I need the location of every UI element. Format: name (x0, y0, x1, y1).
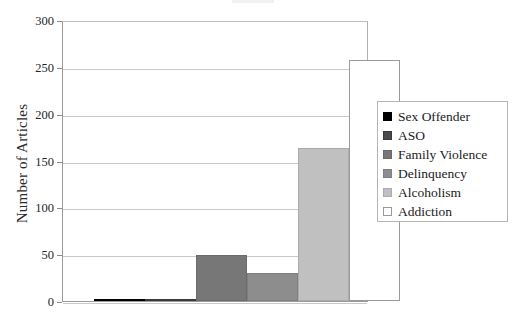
legend-item: Family Violence (383, 145, 507, 164)
bar-series (63, 22, 367, 301)
gridline (63, 303, 367, 304)
y-tick-mark (57, 302, 62, 303)
y-tick-label: 100 (10, 201, 54, 216)
legend-label: Alcoholism (398, 186, 461, 200)
y-tick-label: 0 (10, 295, 54, 310)
scan-artifact (232, 0, 274, 3)
y-tick-label: 150 (10, 154, 54, 169)
y-tick-label: 250 (10, 60, 54, 75)
bar-family-violence (196, 255, 247, 301)
bar-alcoholism (298, 148, 349, 301)
legend-item: Alcoholism (383, 183, 507, 202)
bar-chart-figure: Number of Articles 050100150200250300 Se… (0, 0, 512, 328)
legend-swatch-icon (383, 207, 392, 216)
plot-area (62, 21, 368, 302)
legend-item: Addiction (383, 202, 507, 221)
legend-item: Sex Offender (383, 107, 507, 126)
legend-swatch-icon (383, 169, 392, 178)
legend-label: Addiction (398, 205, 452, 219)
y-tick-label: 300 (10, 14, 54, 29)
legend-item: ASO (383, 126, 507, 145)
y-tick-label: 50 (10, 248, 54, 263)
legend-label: Sex Offender (398, 110, 470, 124)
legend-swatch-icon (383, 188, 392, 197)
legend-swatch-icon (383, 112, 392, 121)
legend-label: Delinquency (398, 167, 467, 181)
bar-delinquency (247, 273, 298, 301)
legend-item: Delinquency (383, 164, 507, 183)
bar-aso (145, 299, 196, 301)
chart-legend: Sex OffenderASOFamily ViolenceDelinquenc… (377, 101, 508, 222)
legend-label: ASO (398, 129, 425, 143)
bar-sex-offender (94, 299, 145, 301)
y-tick-label: 200 (10, 107, 54, 122)
legend-swatch-icon (383, 131, 392, 140)
legend-swatch-icon (383, 150, 392, 159)
legend-label: Family Violence (398, 148, 487, 162)
